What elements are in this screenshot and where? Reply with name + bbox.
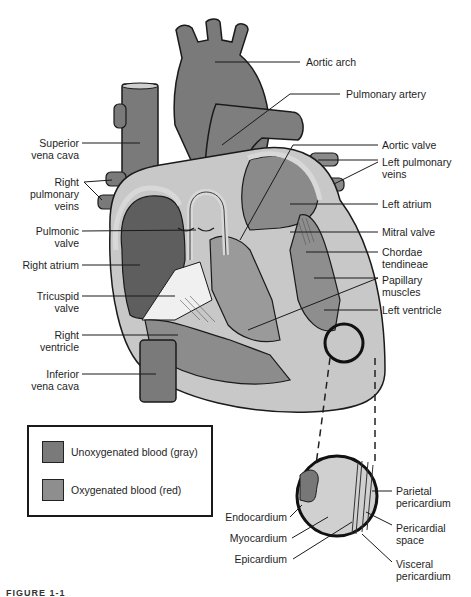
label-line: Epicardium xyxy=(234,553,287,565)
label-line: space xyxy=(396,534,446,546)
legend-swatch-oxygenated xyxy=(42,479,64,501)
label-line: Right xyxy=(40,329,79,341)
label-line: veins xyxy=(382,168,451,180)
label-line: vena cava xyxy=(31,380,79,392)
label-myocardium: Myocardium xyxy=(230,532,287,544)
label-line: Endocardium xyxy=(225,511,287,523)
label-line: veins xyxy=(30,200,79,212)
label-line: Inferior xyxy=(31,368,79,380)
label-pericardial-space: Pericardial space xyxy=(396,522,446,546)
label-parietal-pericardium: Parietal pericardium xyxy=(396,485,451,509)
label-line: tendineae xyxy=(382,258,428,270)
label-line: Mitral valve xyxy=(382,226,435,238)
label-line: Aortic arch xyxy=(306,56,356,68)
label-line: Tricuspid xyxy=(37,290,79,302)
label-line: ventricle xyxy=(40,341,79,353)
label-papillary-muscles: Papillary muscles xyxy=(382,274,422,298)
label-chordae-tendineae: Chordae tendineae xyxy=(382,246,428,270)
label-line: Superior xyxy=(31,137,79,149)
label-line: valve xyxy=(37,302,79,314)
label-line: valve xyxy=(36,237,79,249)
label-pulmonic-valve: Pulmonic valve xyxy=(36,225,79,249)
label-line: Papillary xyxy=(382,274,422,286)
label-line: Left atrium xyxy=(382,198,432,210)
label-visceral-pericardium: Visceral pericardium xyxy=(396,558,451,582)
legend-item-oxygenated: Oxygenated blood (red) xyxy=(42,479,181,501)
label-line: vena cava xyxy=(31,149,79,161)
label-line: Right xyxy=(30,176,79,188)
legend-box: Unoxygenated blood (gray) Oxygenated blo… xyxy=(27,425,213,517)
label-line: Chordae xyxy=(382,246,428,258)
legend-swatch-unoxygenated xyxy=(42,441,64,463)
label-inferior-vena-cava: Inferior vena cava xyxy=(31,368,79,392)
label-right-atrium: Right atrium xyxy=(22,259,79,271)
label-line: muscles xyxy=(382,286,422,298)
label-line: Aortic valve xyxy=(382,139,436,151)
label-line: Pulmonic xyxy=(36,225,79,237)
label-tricuspid-valve: Tricuspid valve xyxy=(37,290,79,314)
label-superior-vena-cava: Superior vena cava xyxy=(31,137,79,161)
label-right-pulmonary-veins: Right pulmonary veins xyxy=(30,176,79,212)
label-mitral-valve: Mitral valve xyxy=(382,226,435,238)
label-left-atrium: Left atrium xyxy=(382,198,432,210)
legend-label: Oxygenated blood (red) xyxy=(71,484,181,496)
label-line: pericardium xyxy=(396,570,451,582)
label-line: pericardium xyxy=(396,497,451,509)
label-line: Left pulmonary xyxy=(382,156,451,168)
label-line: Parietal xyxy=(396,485,451,497)
label-right-ventricle: Right ventricle xyxy=(40,329,79,353)
label-line: pulmonary xyxy=(30,188,79,200)
label-aortic-valve: Aortic valve xyxy=(382,139,436,151)
label-endocardium: Endocardium xyxy=(225,511,287,523)
label-line: Myocardium xyxy=(230,532,287,544)
label-line: Pulmonary artery xyxy=(346,88,426,100)
legend-label: Unoxygenated blood (gray) xyxy=(71,446,198,458)
inferior-vena-cava-shape xyxy=(140,340,176,402)
label-left-pulmonary-veins: Left pulmonary veins xyxy=(382,156,451,180)
label-line: Pericardial xyxy=(396,522,446,534)
label-left-ventricle: Left ventricle xyxy=(382,304,442,316)
figure-caption: FIGURE 1-1 xyxy=(6,588,66,597)
label-epicardium: Epicardium xyxy=(234,553,287,565)
label-line: Left ventricle xyxy=(382,304,442,316)
label-line: Visceral xyxy=(396,558,451,570)
label-line: Right atrium xyxy=(22,259,79,271)
label-aortic-arch: Aortic arch xyxy=(306,56,356,68)
label-pulmonary-artery: Pulmonary artery xyxy=(346,88,426,100)
legend-item-unoxygenated: Unoxygenated blood (gray) xyxy=(42,441,198,463)
